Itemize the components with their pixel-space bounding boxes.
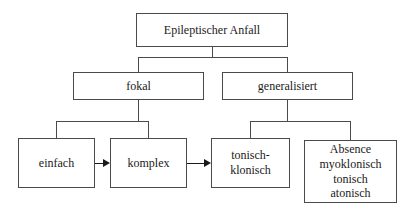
node-tonisch-klonisch: tonisch- klonisch — [211, 138, 290, 188]
connector-einfach-drop — [56, 121, 57, 139]
node-generalisiert: generalisiert — [222, 72, 353, 100]
node-root: Epileptischer Anfall — [136, 13, 288, 47]
node-fokal: fokal — [73, 72, 204, 100]
connector-fokal-crossbar — [56, 121, 149, 122]
node-komplex-label: komplex — [125, 156, 173, 171]
connector-root-crossbar — [138, 57, 288, 58]
arrow-einfach-to-komplex — [95, 163, 103, 164]
node-einfach-label: einfach — [36, 156, 77, 171]
connector-generalisiert-stem — [287, 100, 288, 122]
connector-general-crossbar — [250, 121, 351, 122]
connector-komplex-drop — [148, 121, 149, 139]
node-tonisch-klonisch-label: tonisch- klonisch — [227, 148, 274, 177]
node-absence-group-label: Absence myoklonisch tonisch atonisch — [317, 142, 385, 201]
connector-absence-drop — [350, 121, 351, 141]
node-root-label: Epileptischer Anfall — [161, 23, 263, 38]
node-generalisiert-label: generalisiert — [255, 79, 320, 94]
epilepsy-seizure-classification-diagram: Epileptischer Anfallfokalgeneralisiertei… — [0, 0, 415, 218]
node-fokal-label: fokal — [123, 79, 154, 94]
connector-fokal-stem — [138, 100, 139, 122]
arrowhead-einfach-to-komplex-icon — [103, 159, 110, 167]
connector-tonisch-drop — [250, 121, 251, 139]
arrow-komplex-to-tonisch — [187, 163, 204, 164]
connector-fokal-drop — [138, 57, 139, 73]
node-komplex: komplex — [110, 138, 187, 188]
arrowhead-komplex-to-tonisch-icon — [204, 159, 211, 167]
node-einfach: einfach — [18, 138, 95, 188]
node-absence-group: Absence myoklonisch tonisch atonisch — [304, 140, 397, 203]
connector-generalisiert-drop — [287, 57, 288, 73]
